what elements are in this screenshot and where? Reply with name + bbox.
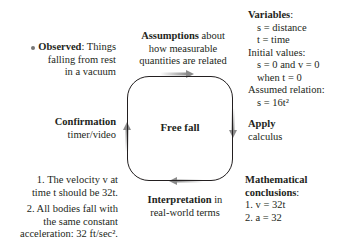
apply-block: Apply calculus [248, 118, 328, 143]
interpretation-block: Interpretation in real-world terms [128, 194, 242, 219]
predictions-block: 1. The velocity v at time t should be 32… [5, 174, 118, 241]
center-label: Free fall [127, 121, 233, 134]
observed-block: Observed: Things falling from rest in a … [10, 41, 116, 79]
math-conclusions-block: Mathematical conclusions: 1. v = 32t 2. … [245, 174, 341, 224]
assumptions-block: Assumptions about how measurable quantit… [128, 30, 238, 68]
confirmation-block: Confirmation timer/video [10, 116, 116, 141]
bullet-icon [31, 46, 35, 50]
variables-block: Variables: s = distance t = time Initial… [248, 9, 341, 109]
